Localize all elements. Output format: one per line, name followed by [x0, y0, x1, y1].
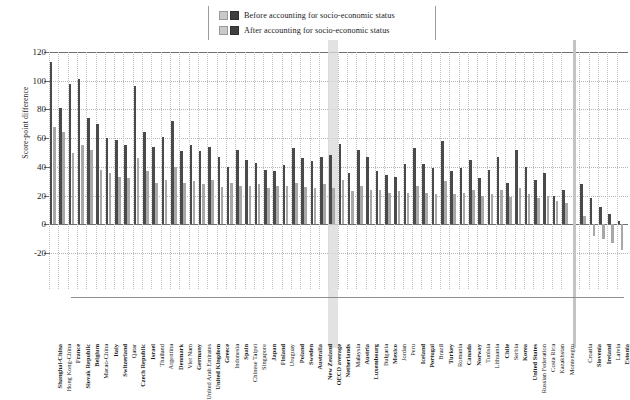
y-tick-label-120: 120 — [18, 47, 46, 57]
bar-after — [342, 180, 345, 225]
bar-after — [165, 180, 168, 225]
category-divider — [477, 52, 478, 289]
x-axis-label: Thailand — [159, 344, 165, 367]
bar-after — [528, 194, 531, 224]
legend-swatch-dark-icon — [230, 26, 239, 35]
x-axis-label: Singapore — [261, 344, 267, 370]
x-axis-label: Luxembourg — [373, 344, 379, 380]
y-tick-label--20: -20 — [18, 248, 46, 258]
bar-after — [565, 203, 568, 225]
bar-after — [398, 191, 401, 224]
bar-after — [407, 193, 410, 225]
x-axis-label: Croatia — [587, 344, 593, 363]
bar-after — [583, 216, 586, 225]
y-tick-label-60: 60 — [18, 133, 46, 143]
legend-swatch-light-icon — [219, 26, 228, 35]
bar-after — [360, 186, 363, 225]
bar-after — [304, 187, 307, 224]
x-axis-label: Peru — [410, 344, 416, 356]
x-axis-labels: Shanghai-ChinaHong Kong-ChinaFranceSlova… — [49, 256, 626, 346]
x-axis-label: Qatar — [131, 344, 137, 358]
bar-after — [472, 190, 475, 224]
bar-after — [509, 197, 512, 224]
category-divider — [347, 52, 348, 289]
plot-area — [49, 52, 626, 253]
x-axis-label: Czech Republic — [140, 344, 146, 387]
bar-after — [239, 186, 242, 225]
x-axis-label: Serbia — [513, 344, 519, 360]
category-divider — [394, 52, 395, 289]
bar-after — [230, 183, 233, 225]
bar-before — [608, 214, 611, 224]
x-axis-label: Mexico — [392, 344, 398, 364]
category-divider — [533, 52, 534, 289]
bar-after — [62, 132, 65, 224]
x-axis-label: Switzerland — [122, 344, 128, 377]
x-axis-label: Italy — [113, 344, 119, 357]
bar-after — [109, 173, 112, 225]
bar-before — [590, 198, 593, 224]
bar-after — [416, 186, 419, 225]
x-axis-label: Shanghai-China — [57, 344, 63, 388]
bar-after — [547, 196, 550, 225]
y-axis-label: Score-point difference — [21, 78, 30, 168]
x-axis-label: Denmark — [178, 344, 184, 370]
legend-swatch-light-icon — [219, 11, 228, 20]
x-axis-label: Brazil — [438, 344, 444, 360]
bar-after — [444, 181, 447, 224]
x-axis-label: OECD average — [336, 344, 342, 385]
bar-after — [425, 193, 428, 225]
bar-after — [370, 190, 373, 224]
x-axis-label: Turkey — [448, 344, 454, 364]
bar-after — [221, 187, 224, 224]
category-divider — [579, 52, 580, 289]
x-axis-label: New Zealand — [327, 344, 333, 380]
category-divider — [598, 52, 599, 289]
x-axis-label: Canada — [466, 344, 472, 365]
legend-item-before: Before accounting for socio-economic sta… — [219, 8, 435, 23]
category-divider — [617, 52, 618, 289]
bar-after — [146, 171, 149, 224]
x-axis-label: Portugal — [429, 344, 435, 368]
bar-after — [127, 178, 130, 224]
x-axis-label: Slovak Republic — [85, 344, 91, 389]
bar-after — [314, 188, 317, 224]
bar-after — [323, 184, 326, 224]
x-axis-label: Montenegro — [569, 344, 575, 375]
bar-after — [621, 224, 624, 250]
x-axis-label: Chile — [504, 344, 510, 359]
bar-after — [453, 194, 456, 224]
x-axis-label: United Arab Emirates — [206, 344, 212, 400]
label-frame-divider — [71, 297, 624, 298]
bar-after — [351, 191, 354, 224]
x-axis-label: Jordan — [401, 344, 407, 361]
bar-after — [118, 177, 121, 224]
x-axis-label: Romania — [457, 344, 463, 367]
bar-after — [174, 167, 177, 224]
category-divider — [589, 52, 590, 289]
bar-after — [211, 180, 214, 225]
category-divider — [505, 52, 506, 289]
category-divider — [384, 52, 385, 289]
x-axis-label: Norway — [476, 344, 482, 366]
bar-after — [276, 186, 279, 225]
x-axis-label: Costa Rica — [550, 344, 556, 372]
x-axis-label: Chinese Taipei — [252, 344, 258, 382]
x-axis-label: Korea — [522, 344, 528, 361]
bar-after — [258, 184, 261, 224]
x-axis-label: Netherlands — [345, 344, 351, 377]
x-axis-label: Kazakhstan — [559, 344, 565, 374]
x-axis-label: Uruguay — [289, 344, 295, 366]
x-axis-label: Bulgaria — [383, 344, 389, 366]
x-axis-label: United Kingdom — [215, 344, 221, 390]
bar-after — [72, 153, 75, 225]
x-axis-label: Latvia — [615, 344, 621, 360]
x-axis-label: Lithuania — [494, 344, 500, 369]
bar-after — [137, 158, 140, 224]
x-axis-label: Estonia — [624, 344, 630, 365]
bar-after — [332, 188, 335, 224]
bar-after — [53, 127, 56, 225]
bar-after — [491, 194, 494, 224]
x-axis-label: Indonesia — [234, 344, 240, 369]
x-axis-label: Sweden — [308, 344, 314, 365]
